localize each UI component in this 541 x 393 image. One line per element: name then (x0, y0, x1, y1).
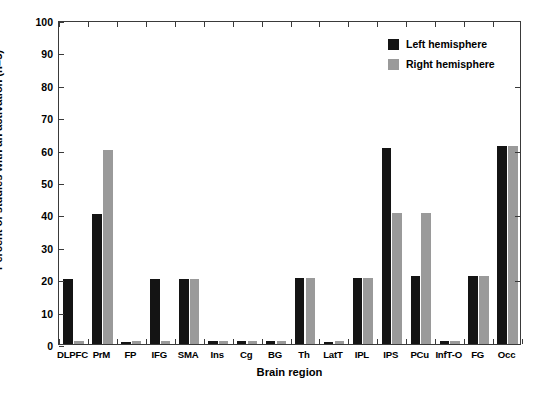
bar-prm-left (92, 214, 102, 344)
top-axis-tick-mark (291, 22, 292, 27)
top-axis-tick-mark (377, 22, 378, 27)
legend-item-left-hemisphere: Left hemisphere (388, 38, 495, 50)
top-axis-tick-mark (146, 22, 147, 27)
x-axis-tick-mark (406, 339, 407, 344)
bar-fg-right (479, 276, 489, 344)
y-axis-tick-mark (59, 184, 64, 185)
top-axis-tick-mark (435, 22, 436, 27)
y-axis-tick-label: 80 (41, 81, 53, 93)
x-axis-tick-mark (59, 339, 60, 344)
bar-ifg-left (150, 279, 160, 344)
y-axis-tick-mark (59, 119, 64, 120)
y-axis-tick-label: 100 (35, 16, 53, 28)
top-axis-tick-mark (88, 22, 89, 27)
top-axis-tick-mark (233, 22, 234, 27)
x-axis-tick-mark (522, 339, 523, 344)
x-axis-tick-mark (146, 339, 147, 344)
y-axis-tick-label: 60 (41, 146, 53, 158)
y-axis-tick-mark (59, 249, 64, 250)
x-axis-tick-label: IFG (152, 349, 167, 360)
bar-ins-right (219, 341, 229, 344)
x-axis-tick-mark (233, 339, 234, 344)
bar-ipl-right (363, 278, 373, 344)
y-axis-tick-mark (59, 281, 64, 282)
x-axis-tick-label: Occ (498, 349, 516, 360)
bar-pcu-right (421, 213, 431, 344)
legend-label-right: Right hemisphere (406, 58, 495, 70)
y-axis-tick-label: 40 (41, 210, 53, 222)
y-axis-tick-mark (59, 152, 64, 153)
bar-bg-right (277, 341, 287, 344)
x-axis-tick-label: FG (471, 349, 484, 360)
x-axis-tick-mark (377, 339, 378, 344)
bar-pcu-left (411, 276, 421, 344)
x-axis-tick-label: SMA (178, 349, 199, 360)
right-axis-tick-mark (515, 152, 520, 153)
legend-item-right-hemisphere: Right hemisphere (388, 58, 495, 70)
y-axis-tick-label: 20 (41, 275, 53, 287)
top-axis-tick-mark (319, 22, 320, 27)
x-axis-tick-label: InfT-O (435, 349, 462, 360)
x-axis-tick-label: PCu (410, 349, 429, 360)
top-axis-tick-mark (117, 22, 118, 27)
y-axis-tick-label: 0 (47, 340, 53, 352)
x-axis-tick-mark (493, 339, 494, 344)
bar-dlpfc-left (63, 279, 73, 344)
chart-legend: Left hemisphere Right hemisphere (388, 38, 495, 78)
y-axis-tick-mark (59, 216, 64, 217)
bar-latt-right (335, 341, 345, 344)
legend-swatch-left-icon (388, 39, 399, 50)
x-axis-tick-label: IPL (355, 349, 369, 360)
x-axis-tick-label: BG (268, 349, 282, 360)
bar-sma-left (179, 279, 189, 344)
bar-inft-o-left (440, 341, 450, 344)
top-axis-tick-mark (262, 22, 263, 27)
x-axis-tick-mark (464, 339, 465, 344)
right-axis-tick-mark (515, 216, 520, 217)
x-axis-tick-label: Th (298, 349, 309, 360)
bar-fp-left (121, 342, 131, 344)
bar-chart-figure: 0102030405060708090100 Percent of studie… (0, 0, 541, 393)
right-axis-tick-mark (515, 281, 520, 282)
bar-latt-left (324, 342, 334, 344)
x-axis-tick-label: LatT (323, 349, 342, 360)
right-axis-tick-mark (515, 87, 520, 88)
bar-ipl-left (353, 278, 363, 344)
x-axis-tick-mark (348, 339, 349, 344)
top-axis-tick-mark (348, 22, 349, 27)
top-axis-tick-mark (406, 22, 407, 27)
bar-ifg-right (161, 341, 171, 344)
x-axis-tick-mark (117, 339, 118, 344)
x-axis-tick-mark (204, 339, 205, 344)
y-axis-tick-label: 90 (41, 48, 53, 60)
bar-sma-right (190, 279, 200, 344)
y-axis-tick-label: 70 (41, 113, 53, 125)
top-axis-tick-mark (204, 22, 205, 27)
bar-th-right (306, 278, 316, 344)
y-axis-tick-label: 30 (41, 243, 53, 255)
bar-fp-right (132, 341, 142, 344)
x-axis-tick-mark (175, 339, 176, 344)
y-axis-tick-label: 50 (41, 178, 53, 190)
legend-swatch-right-icon (388, 59, 399, 70)
x-axis-tick-label: PrM (93, 349, 111, 360)
x-axis-tick-mark (291, 339, 292, 344)
x-axis-tick-label: IPS (383, 349, 398, 360)
bar-th-left (295, 278, 305, 344)
legend-label-left: Left hemisphere (406, 38, 487, 50)
y-axis-tick-mark (59, 22, 64, 23)
bar-occ-left (497, 146, 507, 344)
bar-ins-left (208, 341, 218, 344)
y-axis-tick-mark (59, 346, 64, 347)
bar-dlpfc-right (74, 341, 84, 344)
bar-occ-right (508, 146, 518, 344)
x-axis-title: Brain region (58, 366, 521, 378)
x-axis-tick-label: Ins (211, 349, 224, 360)
x-axis-tick-mark (88, 339, 89, 344)
top-axis-tick-mark (493, 22, 494, 27)
x-axis-tick-label: Cg (240, 349, 252, 360)
y-axis-tick-mark (59, 87, 64, 88)
x-axis-tick-label: DLPFC (57, 349, 88, 360)
x-axis-tick-mark (319, 339, 320, 344)
top-axis-tick-mark (464, 22, 465, 27)
